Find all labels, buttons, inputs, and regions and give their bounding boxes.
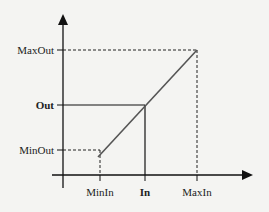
label-out: Out bbox=[36, 99, 55, 111]
label-maxin: MaxIn bbox=[182, 186, 212, 198]
transfer-line bbox=[98, 50, 197, 157]
label-in: In bbox=[140, 186, 150, 198]
scaling-diagram: MaxOut Out MinOut MinIn In MaxIn bbox=[0, 0, 269, 212]
label-minin: MinIn bbox=[86, 186, 114, 198]
y-axis-arrow-icon bbox=[58, 14, 68, 25]
label-maxout: MaxOut bbox=[17, 44, 54, 56]
x-axis-arrow-icon bbox=[242, 170, 253, 180]
label-minout: MinOut bbox=[19, 144, 54, 156]
